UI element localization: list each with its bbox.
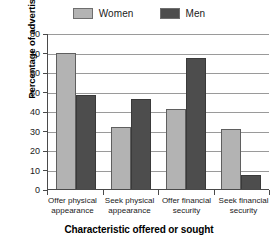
x-axis-label-line2: appearance <box>102 206 157 216</box>
bar-group <box>214 34 269 189</box>
x-axis-label-line2: appearance <box>45 206 100 216</box>
bar-men <box>186 58 206 189</box>
x-axis-label: Seek financialsecurity <box>215 196 272 216</box>
bar-women <box>111 127 131 189</box>
bar-women <box>56 53 76 190</box>
y-axis-tick-label: 20 <box>30 146 43 156</box>
y-axis-tick-label: 70 <box>30 48 43 58</box>
x-axis-tick <box>269 190 270 195</box>
bar-women <box>221 129 241 189</box>
x-axis-tick <box>103 190 104 195</box>
y-axis-tick-label: 0 <box>35 185 43 195</box>
y-axis-tick-label: 60 <box>30 68 43 78</box>
x-axis-label-line1: Seek physical <box>102 196 157 206</box>
bar-chart: Women Men Percentage of advertisements 0… <box>0 0 278 244</box>
x-axis-tick <box>214 190 215 195</box>
x-axis-label-line2: security <box>159 206 214 216</box>
legend-swatch-men <box>160 8 180 19</box>
legend-label-women: Women <box>99 8 134 19</box>
chart-legend: Women Men <box>0 8 278 19</box>
y-axis-tick-label: 10 <box>30 165 43 175</box>
y-axis-tick-label: 50 <box>30 87 43 97</box>
legend-label-men: Men <box>186 8 206 19</box>
x-axis-ticks <box>47 190 269 195</box>
x-axis-label-line2: security <box>216 206 271 216</box>
y-axis-tick-label: 30 <box>30 126 43 136</box>
x-axis-label: Offer financialsecurity <box>158 196 215 216</box>
legend-swatch-women <box>73 8 93 19</box>
x-axis-label: Seek physicalappearance <box>101 196 158 216</box>
bar-men <box>241 175 261 189</box>
legend-entry-women: Women <box>73 8 134 19</box>
bar-groups <box>48 34 269 189</box>
x-axis-label-line1: Offer financial <box>159 196 214 206</box>
y-axis-ticks: 01020304050607080 <box>0 34 47 190</box>
bar-group <box>159 34 214 189</box>
x-axis-label-line1: Offer physical <box>45 196 100 206</box>
bar-group <box>103 34 158 189</box>
x-axis-tick <box>47 190 48 195</box>
bar-men <box>76 95 96 189</box>
x-axis-label-line1: Seek financial <box>216 196 271 206</box>
y-axis-tick-label: 80 <box>30 29 43 39</box>
bar-women <box>166 109 186 189</box>
x-axis-title: Characteristic offered or sought <box>0 224 278 235</box>
y-axis-tick-label: 40 <box>30 107 43 117</box>
bar-group <box>48 34 103 189</box>
legend-entry-men: Men <box>160 8 206 19</box>
plot-area <box>47 34 269 190</box>
x-axis-tick <box>158 190 159 195</box>
bar-men <box>131 99 151 189</box>
x-axis-label: Offer physicalappearance <box>44 196 101 216</box>
x-axis-labels: Offer physicalappearanceSeek physicalapp… <box>44 196 272 216</box>
